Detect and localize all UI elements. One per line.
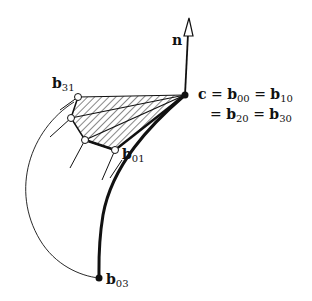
label-b03: b03 bbox=[106, 271, 129, 289]
label-b01: b01 bbox=[122, 146, 145, 164]
point-b01 bbox=[112, 147, 119, 154]
equation-line-1: c = b00 = b10 bbox=[198, 86, 293, 104]
normal-arrowhead-icon bbox=[184, 18, 193, 36]
point-b21 bbox=[68, 115, 75, 122]
point-b03 bbox=[96, 275, 103, 282]
label-b31: b31 bbox=[52, 75, 75, 93]
equation-line-2: = b20 = b30 bbox=[210, 106, 292, 124]
normal-arrow-shaft bbox=[185, 34, 188, 95]
label-n: n bbox=[172, 32, 182, 48]
point-b31 bbox=[75, 94, 82, 101]
apex-point bbox=[182, 92, 189, 99]
point-b11 bbox=[82, 137, 89, 144]
bezier-patch-diagram bbox=[0, 0, 312, 301]
